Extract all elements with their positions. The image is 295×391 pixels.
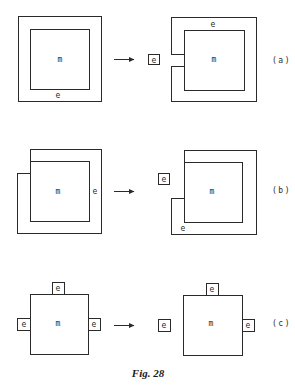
detached-label: e xyxy=(162,175,167,184)
inner-label: m xyxy=(209,319,214,328)
shell-label: e xyxy=(93,187,98,196)
row-c-after: e e e m xyxy=(159,284,255,356)
detached-label: e xyxy=(152,56,157,65)
row-c: e e e m e e e m (c) xyxy=(18,283,291,356)
row-tag: (b) xyxy=(272,186,291,195)
inner-label: m xyxy=(210,187,215,196)
detached-label: e xyxy=(162,321,167,330)
inner-label: m xyxy=(212,55,217,64)
shell-label: e xyxy=(181,224,186,233)
right-label: e xyxy=(246,321,251,330)
shell-label: e xyxy=(211,20,216,29)
row-tag: (a) xyxy=(272,56,291,65)
row-a: m e e m e (a) xyxy=(19,17,291,102)
row-tag: (c) xyxy=(272,319,291,328)
shell-label: e xyxy=(56,91,61,100)
inner-label: m xyxy=(58,55,63,64)
figure-caption: Fig. 28 xyxy=(131,367,165,379)
left-label: e xyxy=(22,320,27,329)
top-label: e xyxy=(56,284,61,293)
row-c-before: e e e m xyxy=(18,283,101,355)
row-b: m e e m e (b) xyxy=(18,150,291,235)
inner-label: m xyxy=(56,319,61,328)
row-a-after: e m e xyxy=(149,18,257,102)
row-b-after: e m e xyxy=(159,151,257,235)
top-label: e xyxy=(210,285,215,294)
row-a-before: m e xyxy=(19,17,102,102)
row-b-before: m e xyxy=(18,150,102,234)
right-label: e xyxy=(92,320,97,329)
figure-canvas: m e e m e (a) m e e m e (b) xyxy=(0,0,295,391)
inner-label: m xyxy=(56,187,61,196)
